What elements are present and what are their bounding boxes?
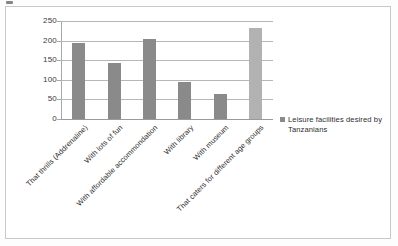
legend-label: Leisure facilities desired by Tanzanians — [288, 115, 388, 135]
scan-artifact — [6, 1, 13, 4]
bar — [108, 63, 121, 119]
chart-frame: 050100150200250 That thrills (Addrenalin… — [5, 6, 391, 239]
y-axis-tick-label: 200 — [27, 37, 57, 45]
y-axis-tick-mark — [57, 60, 61, 61]
y-axis-tick-label: 250 — [27, 17, 57, 25]
gridline — [61, 21, 273, 22]
x-axis-category-label: That caters for different age groups — [175, 123, 265, 213]
x-axis-category-label: That thrills (Addrenaline) — [24, 123, 89, 188]
bar — [143, 39, 156, 119]
bar — [178, 82, 191, 119]
bar — [249, 28, 262, 119]
y-axis-tick-mark — [57, 99, 61, 100]
y-axis-tick-labels: 050100150200250 — [24, 21, 57, 119]
y-axis-tick-mark — [57, 21, 61, 22]
gridline — [61, 80, 273, 81]
plot-area — [61, 21, 273, 119]
bar — [72, 43, 85, 119]
y-axis-tick-mark — [57, 41, 61, 42]
bar — [214, 94, 227, 119]
gridline — [61, 99, 273, 100]
gridline — [61, 60, 273, 61]
chart-legend: Leisure facilities desired by Tanzanians — [280, 115, 388, 135]
y-axis-tick-label: 50 — [27, 95, 57, 103]
legend-swatch-icon — [280, 117, 285, 122]
y-axis-tick-mark — [57, 119, 61, 120]
y-axis-tick-label: 100 — [27, 76, 57, 84]
x-axis-category-label: With museum — [191, 123, 230, 162]
gridline — [61, 41, 273, 42]
x-axis-category-label: With library — [162, 123, 195, 156]
x-axis-category-label: With lots of fun — [82, 123, 124, 165]
y-axis-tick-label: 0 — [27, 115, 57, 123]
y-axis-tick-mark — [57, 80, 61, 81]
y-axis-tick-label: 150 — [27, 56, 57, 64]
gridline — [61, 119, 273, 120]
x-axis-category-label: With affordable accommondation — [75, 123, 160, 208]
